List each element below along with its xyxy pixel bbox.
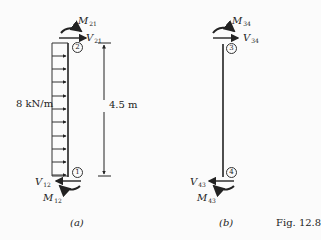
node-2: 2 bbox=[72, 42, 83, 53]
panel-label-b: (b) bbox=[219, 218, 233, 228]
label-m34: M34 bbox=[232, 16, 251, 27]
moment-arrow-m21 bbox=[61, 28, 81, 33]
label-m12: M12 bbox=[43, 193, 62, 204]
label-m21: M21 bbox=[78, 16, 97, 27]
label-v34: V34 bbox=[243, 33, 259, 44]
node-4: 4 bbox=[226, 167, 237, 178]
load-label: 8 kN/m bbox=[16, 99, 53, 109]
label-v43: V43 bbox=[190, 177, 206, 188]
distributed-load bbox=[52, 43, 68, 176]
moment-arrow-m12 bbox=[60, 186, 80, 190]
moment-arrow-m43 bbox=[214, 186, 234, 190]
label-m43: M43 bbox=[197, 193, 216, 204]
dimension-label: 4.5 m bbox=[109, 100, 138, 110]
panel-label-a: (a) bbox=[70, 218, 84, 228]
node-3: 3 bbox=[226, 43, 237, 54]
label-v21: V21 bbox=[86, 33, 102, 44]
label-v12: V12 bbox=[35, 177, 51, 188]
figure-caption: Fig. 12.8 bbox=[276, 218, 321, 228]
moment-arrow-m34 bbox=[213, 28, 234, 33]
node-1: 1 bbox=[72, 167, 83, 178]
